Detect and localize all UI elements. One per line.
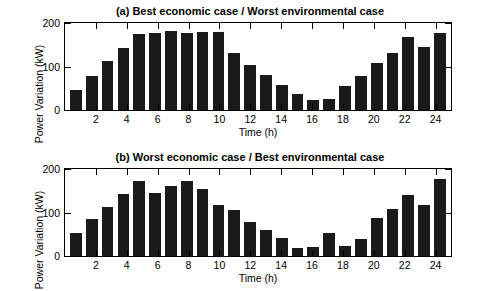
x-tick-mark	[189, 23, 190, 29]
panel-a-title: (a) Best economic case / Worst environme…	[40, 5, 460, 17]
bar	[149, 193, 161, 257]
bar	[260, 230, 272, 256]
x-tick-mark	[405, 250, 406, 256]
figure-container: (a) Best economic case / Worst environme…	[0, 0, 487, 291]
x-tick-mark	[127, 104, 128, 110]
x-tick-label: 18	[337, 259, 349, 271]
bar-slot	[131, 23, 147, 110]
bar-slot	[163, 23, 179, 110]
x-tick-mark	[374, 169, 375, 175]
bar	[133, 34, 145, 110]
y-tick-mark	[65, 213, 71, 214]
bar-slot	[131, 169, 147, 256]
x-tick-label: 4	[124, 113, 130, 125]
bar-slot	[242, 169, 258, 256]
bar	[181, 33, 193, 110]
x-tick-mark	[312, 104, 313, 110]
bar-slot	[147, 169, 163, 256]
bar	[260, 75, 272, 110]
x-tick-mark	[250, 23, 251, 29]
x-tick-mark	[281, 104, 282, 110]
bar	[402, 195, 414, 256]
chart-panel-a: (a) Best economic case / Worst environme…	[0, 0, 487, 145]
x-tick-mark	[374, 104, 375, 110]
y-tick-label: 200	[42, 163, 60, 175]
x-tick-label: 20	[368, 113, 380, 125]
y-tick-mark	[65, 256, 71, 257]
x-tick-mark	[405, 169, 406, 175]
panel-a-bar-series	[65, 23, 451, 110]
y-tick-label: 100	[42, 61, 60, 73]
bar	[355, 239, 367, 256]
bar	[70, 90, 82, 110]
bar-slot	[84, 23, 100, 110]
bar-slot	[210, 23, 226, 110]
y-tick-mark	[445, 110, 451, 111]
y-tick-label: 0	[54, 250, 60, 262]
x-tick-mark	[436, 104, 437, 110]
chart-panel-b: (b) Worst economic case / Best environme…	[0, 146, 487, 291]
bar	[418, 47, 430, 111]
bar	[387, 53, 399, 110]
bar-slot	[115, 23, 131, 110]
x-tick-label: 20	[368, 259, 380, 271]
bar	[292, 94, 304, 110]
bar-slot	[353, 169, 369, 256]
x-tick-mark	[250, 250, 251, 256]
bar-slot	[100, 23, 116, 110]
bar-slot	[274, 23, 290, 110]
y-tick-mark	[445, 213, 451, 214]
x-tick-mark	[343, 104, 344, 110]
bar-slot	[305, 169, 321, 256]
bar-slot	[179, 23, 195, 110]
x-tick-mark	[127, 250, 128, 256]
y-tick-label: 200	[42, 17, 60, 29]
bar	[339, 246, 351, 256]
y-tick-mark	[65, 23, 71, 24]
x-tick-mark	[127, 23, 128, 29]
x-tick-mark	[158, 169, 159, 175]
x-tick-mark	[219, 23, 220, 29]
bar-slot	[385, 169, 401, 256]
bar-slot	[290, 23, 306, 110]
x-tick-label: 2	[93, 113, 99, 125]
bar-slot	[290, 169, 306, 256]
bar-slot	[305, 23, 321, 110]
bar	[228, 53, 240, 110]
x-tick-mark	[96, 104, 97, 110]
x-tick-label: 18	[337, 113, 349, 125]
bar-slot	[369, 23, 385, 110]
bar-slot	[100, 169, 116, 256]
bar	[355, 76, 367, 110]
bar-slot	[274, 169, 290, 256]
bar	[387, 209, 399, 256]
bar-slot	[258, 169, 274, 256]
bar-slot	[337, 23, 353, 110]
bar	[213, 205, 225, 256]
bar	[118, 48, 130, 110]
bar	[418, 205, 430, 256]
bar-slot	[226, 169, 242, 256]
bar-slot	[242, 23, 258, 110]
bar	[149, 33, 161, 110]
bar	[323, 233, 335, 256]
bar	[133, 181, 145, 256]
x-tick-label: 6	[155, 259, 161, 271]
x-tick-mark	[281, 23, 282, 29]
x-tick-mark	[189, 250, 190, 256]
x-tick-mark	[343, 23, 344, 29]
panel-b-ylabel-wrap: Power Variation (kW)	[0, 168, 20, 257]
x-tick-mark	[158, 250, 159, 256]
bar	[371, 218, 383, 256]
bar	[323, 99, 335, 110]
y-tick-mark	[445, 256, 451, 257]
bar-slot	[400, 169, 416, 256]
x-tick-label: 6	[155, 113, 161, 125]
bar	[118, 194, 130, 256]
x-tick-label: 14	[275, 259, 287, 271]
bar-slot	[369, 169, 385, 256]
x-tick-mark	[405, 23, 406, 29]
bar-slot	[163, 169, 179, 256]
y-tick-label: 100	[42, 207, 60, 219]
x-tick-label: 4	[124, 259, 130, 271]
